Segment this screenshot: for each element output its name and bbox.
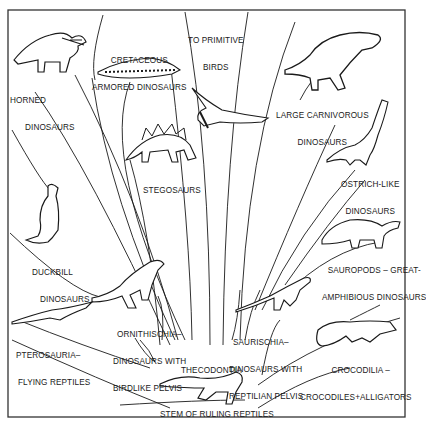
label-line: OSTRICH-LIKE <box>341 180 400 189</box>
crocodile-illustration <box>317 321 396 346</box>
label-line: DINOSAURS WITH <box>113 357 186 366</box>
label-to-primitive-birds: TO PRIMITIVE BIRDS <box>188 18 244 90</box>
label-line: FLYING REPTILES <box>16 378 90 387</box>
label-line: REPTILIAN PELVIS <box>229 392 303 401</box>
label-stem-of-ruling-reptiles: STEM OF RULING REPTILES <box>160 410 274 419</box>
label-line: BIRDS <box>188 63 244 72</box>
label-stegosaurs: STEGOSAURS <box>143 168 201 213</box>
label-large-carnivorous-dinosaurs: LARGE CARNIVOROUS DINOSAURS <box>276 93 369 165</box>
label-line: LARGE CARNIVOROUS <box>276 111 369 120</box>
label-line: TO PRIMITIVE <box>188 36 244 45</box>
label-line: CROCODILIA – <box>300 366 402 375</box>
label-line: DINOSAURS <box>276 138 369 147</box>
label-line: SAURISCHIA– <box>229 338 303 347</box>
horned-dinosaur-illustration <box>14 33 86 72</box>
label-line: DINOSAURS <box>10 123 75 132</box>
label-line: ARMORED DINOSAURS <box>92 83 187 92</box>
label-duckbill-dinosaurs: DUCKBILL DINOSAURS <box>32 250 90 322</box>
label-line: DINOSAURS <box>32 295 90 304</box>
large-carnivorous-dinosaur-illustration <box>285 33 380 91</box>
label-thecodontia: THECODONTIA <box>181 366 242 375</box>
label-line: STEGOSAURS <box>143 186 201 195</box>
label-sauropods: SAUROPODS – GREAT- AMPHIBIOUS DINOSAURS <box>322 248 426 320</box>
label-line: PTEROSAURIA– <box>16 351 90 360</box>
stegosaur-illustration <box>126 124 196 162</box>
label-line: DUCKBILL <box>32 268 90 277</box>
primitive-bird-illustration <box>192 88 268 128</box>
label-ostrich-like-dinosaurs: OSTRICH-LIKE DINOSAURS <box>341 162 400 234</box>
label-ornithischia: ORNITHISCHIA– DINOSAURS WITH BIRDLIKE PE… <box>113 312 186 411</box>
duckbill-dinosaur-illustration <box>26 184 59 243</box>
saurischian-dinosaur-illustration <box>236 278 310 313</box>
label-line: BIRDLIKE PELVIS <box>113 384 186 393</box>
label-horned-dinosaurs: HORNED DINOSAURS <box>10 78 75 150</box>
label-cretaceous-armored-dinosaurs: CRETACEOUS ARMORED DINOSAURS <box>92 38 187 110</box>
label-line: DINOSAURS <box>341 207 400 216</box>
label-line: SAUROPODS – GREAT- <box>322 266 426 275</box>
label-line: CROCODILES+ALLIGATORS <box>300 393 402 402</box>
label-crocodilia: CROCODILIA – CROCODILES+ALLIGATORS <box>300 348 402 420</box>
label-line: ORNITHISCHIA– <box>113 330 186 339</box>
label-pterosauria: PTEROSAURIA– FLYING REPTILES <box>16 333 90 405</box>
label-line: AMPHIBIOUS DINOSAURS <box>322 293 426 302</box>
label-line: CRETACEOUS <box>92 56 187 65</box>
label-line: HORNED <box>10 96 75 105</box>
